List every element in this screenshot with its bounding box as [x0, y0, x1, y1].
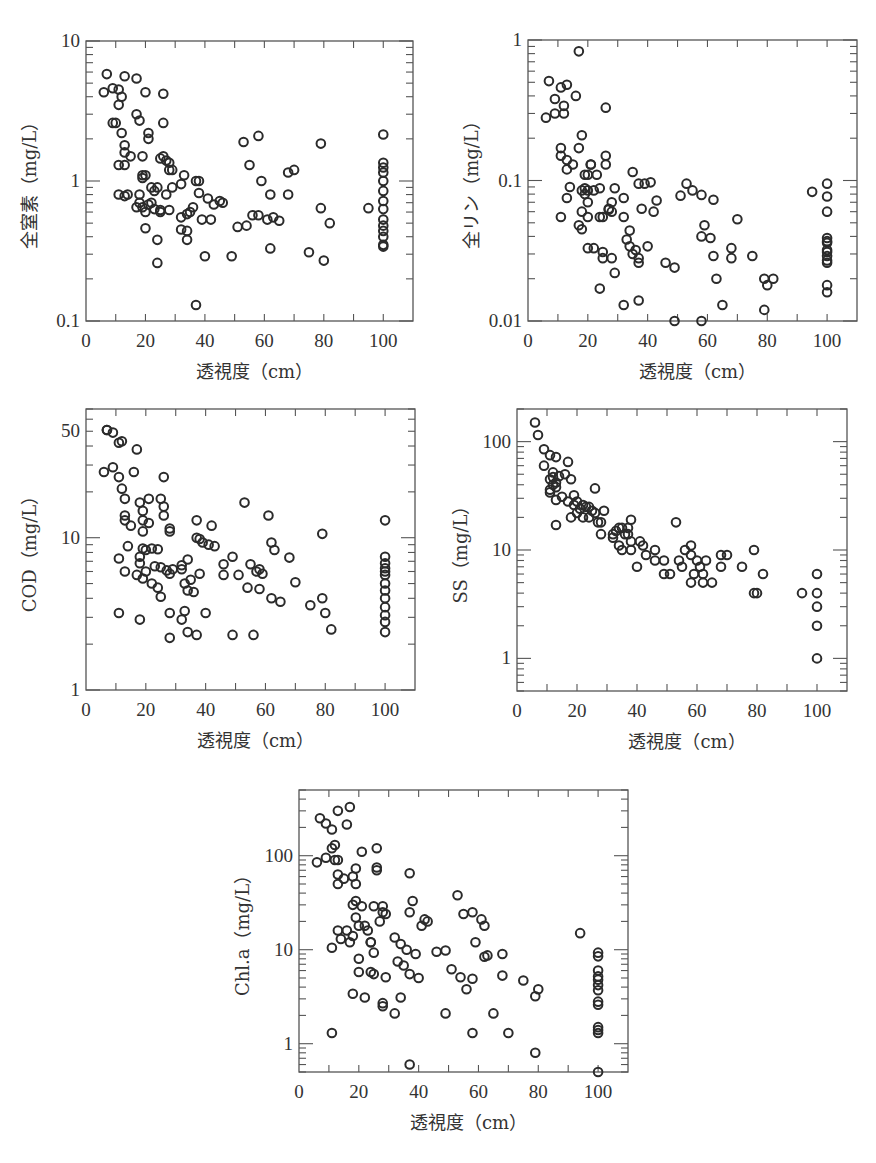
data-point — [498, 971, 507, 980]
y-tick-label: 100 — [265, 845, 294, 866]
data-point — [462, 985, 471, 994]
data-point — [334, 880, 343, 889]
data-point — [375, 917, 384, 926]
data-point — [405, 1060, 414, 1069]
y-tick-label: 10 — [274, 939, 293, 960]
data-point — [358, 848, 367, 857]
data-point — [355, 955, 364, 964]
data-point — [343, 820, 352, 829]
data-point — [498, 950, 507, 959]
data-point — [531, 1049, 540, 1058]
x-tick-label: 0 — [294, 1081, 304, 1102]
data-point — [349, 989, 358, 998]
data-point — [471, 938, 480, 947]
data-point — [405, 970, 414, 979]
x-axis-label: 透視度（cm） — [410, 1112, 527, 1133]
data-point — [396, 993, 405, 1002]
data-point — [504, 1029, 513, 1038]
data-point — [408, 897, 417, 906]
data-point — [489, 1009, 498, 1018]
data-point — [337, 935, 346, 944]
data-point — [322, 853, 331, 862]
data-point — [441, 1009, 450, 1018]
data-point — [468, 975, 477, 984]
data-point — [334, 807, 343, 816]
data-point — [414, 974, 423, 983]
chart-chlorophyll-a: 020406080100110100透視度（cm）Chl.a（mg/L） — [0, 0, 876, 1163]
data-point — [396, 940, 405, 949]
data-point — [453, 891, 462, 900]
data-point — [328, 943, 337, 952]
data-point — [405, 908, 414, 917]
data-point — [411, 950, 420, 959]
data-point — [334, 926, 343, 935]
data-point — [369, 902, 378, 911]
data-point — [381, 973, 390, 982]
x-tick-label: 80 — [529, 1081, 548, 1102]
data-point — [358, 902, 367, 911]
data-point — [328, 825, 337, 834]
data-point — [355, 968, 364, 977]
x-tick-label: 100 — [584, 1081, 613, 1102]
x-tick-label: 20 — [349, 1081, 368, 1102]
y-axis-label: Chl.a（mg/L） — [232, 866, 253, 996]
data-point — [468, 908, 477, 917]
data-point — [346, 803, 355, 812]
data-point — [369, 948, 378, 957]
x-tick-label: 60 — [469, 1081, 488, 1102]
chart-svg: 020406080100110100透視度（cm）Chl.a（mg/L） — [0, 0, 876, 1163]
data-point — [361, 993, 370, 1002]
data-point — [405, 869, 414, 878]
data-point — [313, 858, 322, 867]
data-point — [372, 844, 381, 853]
y-tick-label: 1 — [284, 1033, 294, 1054]
data-point — [459, 910, 468, 919]
data-point — [447, 965, 456, 974]
data-point — [432, 947, 441, 956]
x-tick-label: 40 — [409, 1081, 428, 1102]
data-point — [468, 1029, 477, 1038]
data-point — [352, 880, 361, 889]
plot-frame — [299, 790, 628, 1072]
data-point — [519, 976, 528, 985]
data-point — [456, 973, 465, 982]
data-point — [328, 1029, 337, 1038]
data-point — [390, 1009, 399, 1018]
data-point — [366, 938, 375, 947]
data-point — [576, 929, 585, 938]
data-point — [441, 946, 450, 955]
